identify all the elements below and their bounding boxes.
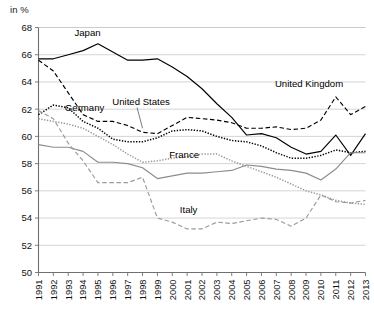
x-tick-label: 1997 — [123, 280, 133, 301]
y-tick-label: 68 — [21, 22, 32, 33]
x-tick-label: 2000 — [168, 280, 178, 301]
series-label-united-states: United States — [112, 96, 170, 107]
y-tick-label: 64 — [21, 76, 32, 87]
x-axis-ticks: 1991199219931994199519961997199819992000… — [34, 273, 371, 301]
x-tick-label: 1991 — [34, 280, 44, 301]
x-tick-label: 2007 — [272, 280, 282, 301]
x-tick-label: 1998 — [138, 280, 148, 301]
series-line-germany — [39, 105, 366, 158]
series-line-united-states — [39, 119, 366, 205]
leader-line-united-states — [137, 108, 142, 129]
y-tick-label: 66 — [21, 49, 32, 60]
y-axis-ticks: 50525456586062646668 — [21, 22, 38, 278]
series-label-japan: Japan — [74, 27, 100, 38]
x-tick-label: 2006 — [257, 280, 267, 301]
x-tick-label: 2003 — [212, 280, 222, 301]
series-label-germany: Germany — [65, 102, 105, 113]
series-line-italy — [39, 111, 366, 229]
x-tick-label: 2012 — [346, 280, 356, 301]
x-tick-label: 2002 — [197, 280, 207, 301]
x-tick-label: 1995 — [93, 280, 103, 301]
gridlines-group — [39, 28, 366, 246]
x-tick-label: 2001 — [183, 280, 193, 301]
series-label-italy: Italy — [180, 204, 198, 215]
chart-plot-area: 50525456586062646668 1991199219931994199… — [0, 0, 374, 318]
x-tick-label: 1999 — [153, 280, 163, 301]
series-label-united-kingdom: United Kingdom — [275, 78, 343, 89]
x-tick-label: 2008 — [287, 280, 297, 301]
series-line-japan — [39, 44, 366, 156]
y-tick-label: 60 — [21, 131, 32, 142]
series-label-france: France — [169, 149, 199, 160]
x-tick-label: 2013 — [361, 280, 371, 301]
x-tick-label: 1996 — [108, 280, 118, 301]
y-tick-label: 54 — [21, 212, 32, 223]
x-tick-label: 2009 — [301, 280, 311, 301]
x-tick-label: 2011 — [331, 280, 341, 300]
y-tick-label: 56 — [21, 185, 32, 196]
x-tick-label: 2004 — [227, 280, 237, 301]
x-tick-label: 2005 — [242, 280, 252, 301]
x-tick-label: 1992 — [49, 280, 59, 301]
y-tick-label: 52 — [21, 240, 32, 251]
axes-group — [39, 28, 366, 273]
y-tick-label: 50 — [21, 267, 32, 278]
y-tick-label: 58 — [21, 158, 32, 169]
y-tick-label: 62 — [21, 104, 32, 115]
series-line-france — [39, 145, 366, 180]
x-tick-label: 1993 — [64, 280, 74, 301]
employment-rate-line-chart: in % 50525456586062646668 19911992199319… — [0, 0, 374, 318]
x-tick-label: 1994 — [78, 280, 88, 301]
x-tick-label: 2010 — [316, 280, 326, 301]
